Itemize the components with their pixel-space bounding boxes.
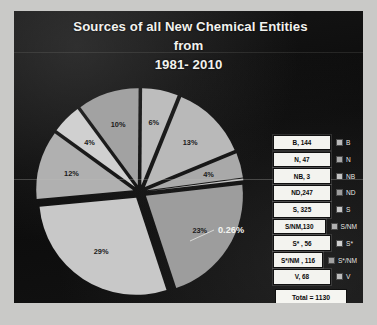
- legend-value-box: B, 144: [273, 135, 331, 151]
- legend-key: V: [336, 273, 350, 280]
- legend-value-box: ND,247: [273, 185, 331, 201]
- legend-total: Total = 1130: [275, 289, 347, 303]
- legend-key: ND: [336, 189, 356, 196]
- pie-label-n: 4%: [203, 170, 214, 179]
- title-line-3: 1981- 2010: [14, 55, 363, 74]
- pie-label-s-: 4%: [84, 138, 95, 147]
- legend-row: S, 325S: [273, 202, 357, 217]
- pie-label-v: 6%: [148, 118, 159, 127]
- pie-slice-s: [40, 198, 167, 295]
- legend-row: S/NM,130S/NM: [273, 219, 357, 234]
- legend-key: B: [336, 139, 350, 146]
- legend-swatch-icon: [336, 273, 343, 280]
- legend-label: V: [346, 273, 350, 280]
- legend-value-box: N, 47: [273, 152, 331, 168]
- legend-label: S*: [346, 240, 353, 247]
- legend-swatch-icon: [336, 156, 343, 163]
- legend-swatch-icon: [336, 240, 343, 247]
- slide-title: Sources of all New Chemical Entities fro…: [14, 17, 363, 74]
- legend-value-box: S*/NM , 116: [273, 252, 323, 268]
- legend-row: V, 68V: [273, 269, 357, 284]
- legend-swatch-icon: [336, 189, 343, 196]
- legend-rows: B, 144BN, 47NNB, 3NBND,247NDS, 325SS/NM,…: [273, 135, 357, 284]
- legend-value-box: NB, 3: [273, 168, 331, 184]
- pie-label-s: 29%: [94, 247, 109, 256]
- legend-row: ND,247ND: [273, 185, 357, 200]
- legend-swatch-icon: [336, 173, 343, 180]
- legend-value-box: S/NM,130: [273, 219, 326, 235]
- legend-value-box: V, 68: [273, 269, 331, 285]
- legend-row: S*/NM , 116S*/NM: [273, 252, 357, 267]
- chart-legend: B, 144BN, 47NNB, 3NBND,247NDS, 325SS/NM,…: [273, 135, 357, 303]
- legend-key: S*: [336, 240, 353, 247]
- legend-swatch-icon: [336, 206, 343, 213]
- legend-value-box: S, 325: [273, 202, 331, 218]
- legend-key: NB: [336, 173, 355, 180]
- legend-key: S*/NM: [328, 257, 357, 264]
- title-line-2: from: [14, 36, 363, 55]
- legend-label: ND: [346, 189, 356, 196]
- legend-label: B: [346, 139, 350, 146]
- legend-swatch-icon: [336, 139, 343, 146]
- pie-label-callout-nb: 0.26%: [218, 225, 244, 235]
- pie-label-s-nm: 10%: [111, 120, 126, 129]
- legend-key: N: [336, 156, 351, 163]
- pie-label-s-nm: 12%: [64, 169, 79, 178]
- legend-key: S: [336, 206, 350, 213]
- legend-row: B, 144B: [273, 135, 357, 150]
- legend-label: S*/NM: [338, 257, 357, 264]
- legend-label: S/NM: [341, 223, 357, 230]
- pie-label-b: 13%: [183, 138, 198, 147]
- pie-chart: 13%4%23%29%12%4%10%6% 0.26%: [18, 87, 268, 303]
- pie-slices: [36, 88, 243, 295]
- legend-key: S/NM: [331, 223, 357, 230]
- pie-chart-svg: 13%4%23%29%12%4%10%6% 0.26%: [18, 87, 268, 303]
- legend-row: S* , 56S*: [273, 236, 357, 251]
- legend-row: NB, 3NB: [273, 169, 357, 184]
- legend-row: N, 47N: [273, 152, 357, 167]
- legend-label: NB: [346, 173, 355, 180]
- presentation-slide: Sources of all New Chemical Entities fro…: [14, 11, 363, 303]
- legend-value-box: S* , 56: [273, 235, 331, 251]
- legend-label: S: [346, 206, 350, 213]
- title-line-1: Sources of all New Chemical Entities: [14, 17, 363, 36]
- legend-swatch-icon: [328, 257, 335, 264]
- legend-label: N: [346, 156, 351, 163]
- legend-swatch-icon: [331, 223, 338, 230]
